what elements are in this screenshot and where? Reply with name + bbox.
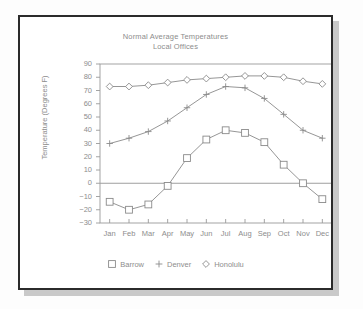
y-tick-label: 10: [66, 165, 92, 174]
y-tick-label: 60: [66, 99, 92, 108]
series-denver: [106, 83, 325, 146]
y-tick-label: 90: [66, 59, 92, 68]
y-tick-label: 70: [66, 86, 92, 95]
series-barrow: [106, 127, 325, 213]
chart-figure: Normal Average Temperatures Local Office…: [20, 17, 331, 288]
y-tick-label: 50: [66, 112, 92, 121]
series-honolulu: [106, 73, 325, 90]
legend-label: Denver: [167, 260, 191, 269]
y-tick-label: 0: [66, 178, 92, 187]
legend-label: Barrow: [120, 260, 144, 269]
square-marker-icon: [107, 259, 117, 269]
y-tick-label: 20: [66, 152, 92, 161]
legend-item: Honolulu: [201, 259, 244, 269]
y-tick-label: 40: [66, 125, 92, 134]
y-tick-label: −30: [66, 218, 92, 227]
figure-frame: Normal Average Temperatures Local Office…: [18, 15, 333, 290]
y-tick-label: 30: [66, 139, 92, 148]
plus-marker-icon: [154, 259, 164, 269]
legend-item: Denver: [154, 259, 191, 269]
y-tick-label: −10: [66, 192, 92, 201]
legend-label: Honolulu: [214, 260, 244, 269]
y-tick-label: −20: [66, 205, 92, 214]
chart-legend: BarrowDenverHonolulu: [20, 259, 331, 269]
screenshot-canvas: Normal Average Temperatures Local Office…: [0, 0, 363, 309]
diamond-marker-icon: [201, 259, 211, 269]
x-tick-label: Dec: [311, 229, 333, 238]
y-tick-label: 80: [66, 72, 92, 81]
legend-item: Barrow: [107, 259, 144, 269]
